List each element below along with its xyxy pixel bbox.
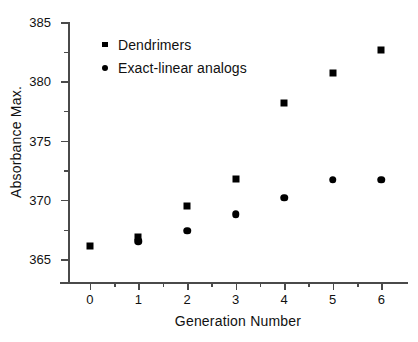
x-tick-major bbox=[284, 283, 286, 290]
legend-square-icon bbox=[92, 42, 118, 48]
y-tick-label: 375 bbox=[29, 133, 51, 148]
x-tick-label: 0 bbox=[86, 292, 93, 307]
y-axis-title: Absorbance Max. bbox=[2, 0, 30, 283]
y-tick-major: 375 bbox=[61, 141, 68, 143]
y-tick-label: 370 bbox=[29, 192, 51, 207]
x-tick-major bbox=[90, 283, 92, 290]
x-tick-minor bbox=[114, 283, 116, 287]
x-tick-label: 1 bbox=[135, 292, 142, 307]
x-axis-title: Generation Number bbox=[68, 313, 408, 329]
y-tick-minor bbox=[64, 170, 68, 172]
y-tick-minor bbox=[64, 52, 68, 54]
data-point-circle bbox=[232, 210, 240, 218]
data-point-circle bbox=[135, 238, 143, 246]
x-tick-major bbox=[381, 283, 383, 290]
y-tick-minor bbox=[64, 230, 68, 232]
x-tick-minor bbox=[211, 283, 213, 287]
y-tick-major: 370 bbox=[61, 200, 68, 202]
y-tick-major: 385 bbox=[61, 22, 68, 24]
data-point-square bbox=[232, 175, 239, 182]
data-point-square bbox=[86, 243, 93, 250]
x-tick-label: 6 bbox=[378, 292, 385, 307]
x-tick-major bbox=[187, 283, 189, 290]
x-tick-label: 4 bbox=[281, 292, 288, 307]
data-point-circle bbox=[329, 176, 337, 184]
y-tick-label: 365 bbox=[29, 252, 51, 267]
x-axis-line bbox=[60, 282, 408, 284]
data-point-circle bbox=[183, 227, 191, 235]
square-marker-icon bbox=[102, 42, 108, 48]
x-tick-minor bbox=[260, 283, 262, 287]
data-point-square bbox=[329, 70, 336, 77]
x-tick-major bbox=[333, 283, 335, 290]
data-point-square bbox=[281, 99, 288, 106]
x-tick-minor bbox=[357, 283, 359, 287]
y-tick-label: 385 bbox=[29, 15, 51, 30]
x-tick-label: 5 bbox=[329, 292, 336, 307]
x-tick-minor bbox=[163, 283, 165, 287]
legend-item-label: Dendrimers bbox=[118, 37, 191, 53]
data-point-circle bbox=[280, 194, 288, 202]
legend-item-label: Exact-linear analogs bbox=[118, 60, 247, 76]
data-point-circle bbox=[378, 176, 386, 184]
y-tick-label: 380 bbox=[29, 74, 51, 89]
data-point-square bbox=[184, 202, 191, 209]
y-tick-major: 365 bbox=[61, 259, 68, 261]
circle-marker-icon bbox=[102, 65, 108, 71]
x-tick-major bbox=[138, 283, 140, 290]
scatter-chart-figure: Absorbance Max. Generation Number 385380… bbox=[0, 0, 418, 342]
x-tick-label: 3 bbox=[232, 292, 239, 307]
legend-circle-icon bbox=[92, 65, 118, 71]
x-tick-label: 2 bbox=[183, 292, 190, 307]
y-tick-minor bbox=[64, 111, 68, 113]
legend-item: Exact-linear analogs bbox=[92, 59, 247, 76]
x-tick-minor bbox=[308, 283, 310, 287]
legend-item: Dendrimers bbox=[92, 36, 247, 53]
chart-legend: DendrimersExact-linear analogs bbox=[92, 36, 247, 76]
y-axis-line bbox=[68, 22, 70, 283]
y-axis-title-text: Absorbance Max. bbox=[8, 86, 24, 198]
y-tick-major: 380 bbox=[61, 81, 68, 83]
x-tick-major bbox=[236, 283, 238, 290]
data-point-square bbox=[378, 47, 385, 54]
